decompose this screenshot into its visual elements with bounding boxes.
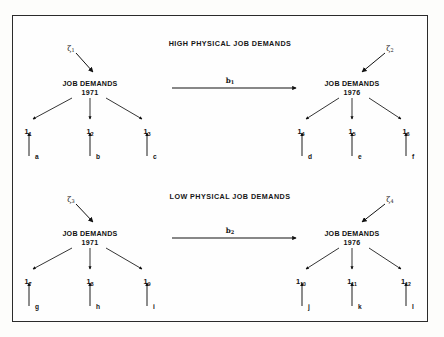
indicator-label-high-1971-1: 11	[25, 127, 32, 136]
error-label-high-1971-2: b	[96, 153, 100, 160]
loading-arrow-low-1971-1	[33, 248, 72, 269]
disturbance-arrow-high-1971	[76, 53, 93, 72]
loading-arrow-low-1971-3	[106, 248, 142, 269]
error-label-low-1971-1: g	[35, 303, 39, 310]
error-label-high-1976-2: e	[358, 153, 362, 160]
disturbance-label-high-1971: ζ1	[67, 44, 74, 53]
indicator-label-high-1976-3: 16	[403, 127, 410, 136]
loading-arrow-low-1976-3	[369, 248, 401, 269]
disturbance-label-low-1976: ζ4	[386, 195, 393, 204]
indicator-label-high-1976-1: 14	[298, 127, 305, 136]
node-low-1976: JOB DEMANDS1976	[324, 230, 379, 247]
indicator-label-high-1976-2: 15	[349, 127, 356, 136]
indicator-label-high-1971-3: 13	[144, 127, 151, 136]
indicator-label-low-1971-1: 17	[25, 277, 32, 286]
indicator-label-low-1976-1: 110	[296, 277, 306, 286]
disturbance-label-high-1976: ζ2	[386, 44, 393, 53]
error-label-low-1976-3: l	[412, 303, 414, 310]
node-low-1971: JOB DEMANDS1971	[62, 230, 117, 247]
error-label-low-1976-2: k	[358, 303, 362, 310]
error-label-high-1971-1: a	[35, 153, 39, 160]
disturbance-arrow-high-1976	[362, 53, 385, 72]
path-diagram-figure: HIGH PHYSICAL JOB DEMANDSb1JOB DEMANDS19…	[0, 0, 444, 337]
error-label-high-1976-3: f	[412, 153, 414, 160]
loading-arrow-high-1971-1	[33, 98, 72, 119]
error-label-high-1976-1: d	[308, 153, 312, 160]
indicator-label-low-1976-3: 112	[401, 277, 411, 286]
indicator-label-low-1971-3: 19	[144, 277, 151, 286]
indicator-label-low-1976-2: 111	[347, 277, 357, 286]
error-label-low-1971-2: h	[96, 303, 100, 310]
loading-arrow-low-1976-1	[306, 248, 339, 269]
panel-title-low: LOW PHYSICAL JOB DEMANDS	[170, 192, 291, 201]
panel-title-high: HIGH PHYSICAL JOB DEMANDS	[169, 39, 292, 48]
path-coefficient-high: b1	[226, 76, 235, 85]
disturbance-label-low-1971: ζ3	[67, 195, 74, 204]
node-high-1976: JOB DEMANDS1976	[324, 80, 379, 97]
path-coefficient-low: b2	[226, 226, 235, 235]
error-label-high-1971-3: c	[153, 153, 157, 160]
node-high-1971: JOB DEMANDS1971	[62, 80, 117, 97]
indicator-label-high-1971-2: 12	[87, 127, 94, 136]
loading-arrow-high-1976-1	[306, 98, 339, 119]
loading-arrow-high-1971-3	[106, 98, 142, 119]
loading-arrow-high-1976-3	[369, 98, 401, 119]
error-label-low-1971-3: i	[153, 303, 155, 310]
disturbance-arrow-low-1971	[76, 204, 93, 222]
disturbance-arrow-low-1976	[362, 204, 385, 222]
error-label-low-1976-1: j	[308, 303, 310, 310]
indicator-label-low-1971-2: 18	[87, 277, 94, 286]
